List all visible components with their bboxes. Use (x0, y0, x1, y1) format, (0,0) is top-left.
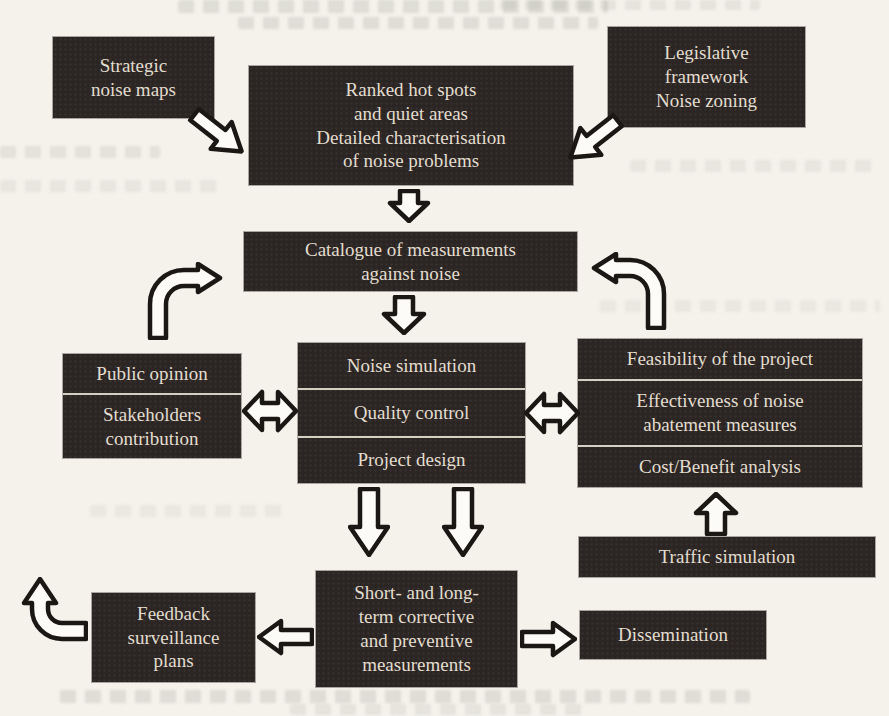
page-bleed-through (90, 505, 290, 517)
box-traffic-simulation-label: Traffic simulation (653, 543, 802, 571)
box-effectiveness: Effectiveness of noise abatement measure… (578, 379, 862, 445)
box-ranked-hot-spots-label: Ranked hot spots and quiet areas Detaile… (310, 76, 511, 176)
arrow-measures-to-feedback-icon (257, 618, 314, 656)
box-stakeholders-contribution-label: Stakeholders contribution (97, 401, 207, 453)
page-bleed-through (630, 160, 880, 172)
box-traffic-simulation: Traffic simulation (579, 537, 875, 577)
arrow-feedback-loop-icon (18, 577, 88, 655)
box-stakeholders-contribution: Stakeholders contribution (63, 393, 241, 458)
page-bleed-through (238, 17, 598, 29)
box-cost-benefit: Cost/Benefit analysis (578, 445, 862, 487)
box-feedback-surveillance-plans-label: Feedback surveillance plans (122, 600, 226, 676)
arrow-catalogue-to-simulation-icon (381, 295, 427, 335)
arrow-double-right-icon (524, 388, 580, 438)
box-quality-control: Quality control (298, 388, 525, 435)
book-page-diagram: Strategic noise maps Ranked hot spots an… (0, 0, 889, 716)
box-public-opinion-label: Public opinion (90, 360, 213, 388)
arrow-double-left-icon (242, 386, 298, 436)
box-strategic-noise-maps: Strategic noise maps (53, 37, 214, 118)
stack-feasibility-effectiveness-cost: Feasibility of the project Effectiveness… (578, 339, 862, 487)
box-noise-simulation: Noise simulation (298, 343, 525, 388)
box-noise-simulation-label: Noise simulation (341, 352, 482, 380)
box-ranked-hot-spots: Ranked hot spots and quiet areas Detaile… (249, 66, 573, 185)
page-bleed-through (178, 0, 608, 13)
box-project-design: Project design (298, 436, 525, 483)
arrow-curved-right-icon (590, 252, 672, 330)
page-bleed-through (500, 0, 760, 10)
arrow-design-to-measures-right-icon (442, 487, 484, 557)
box-catalogue-of-measurements: Catalogue of measurements against noise (244, 232, 577, 291)
arrow-measures-to-dissemination-icon (520, 620, 577, 658)
box-public-opinion: Public opinion (63, 354, 241, 393)
box-effectiveness-label: Effectiveness of noise abatement measure… (630, 387, 809, 439)
arrow-design-to-measures-left-icon (348, 487, 390, 557)
box-short-long-term-measures-label: Short- and long- term corrective and pre… (348, 579, 485, 679)
box-feedback-surveillance-plans: Feedback surveillance plans (92, 593, 255, 682)
box-legislative-framework-label: Legislative framework Noise zoning (650, 39, 763, 115)
box-cost-benefit-label: Cost/Benefit analysis (633, 453, 807, 481)
page-bleed-through (290, 704, 590, 715)
box-quality-control-label: Quality control (348, 399, 476, 427)
stack-public-stakeholders: Public opinion Stakeholders contribution (63, 354, 241, 458)
page-bleed-through (0, 146, 160, 158)
box-short-long-term-measures: Short- and long- term corrective and pre… (316, 571, 517, 687)
page-bleed-through (0, 180, 220, 192)
box-feasibility: Feasibility of the project (578, 339, 862, 379)
box-project-design-label: Project design (351, 446, 471, 474)
box-strategic-noise-maps-label: Strategic noise maps (85, 52, 182, 104)
box-legislative-framework: Legislative framework Noise zoning (608, 27, 805, 127)
arrow-curved-left-icon (142, 262, 224, 340)
box-catalogue-of-measurements-label: Catalogue of measurements against noise (299, 236, 522, 288)
arrow-traffic-to-costbenefit-icon (690, 492, 742, 536)
box-dissemination-label: Dissemination (612, 621, 734, 649)
box-feasibility-label: Feasibility of the project (621, 345, 819, 373)
page-bleed-through (60, 690, 750, 703)
box-dissemination: Dissemination (580, 611, 766, 659)
stack-simulation-control-design: Noise simulation Quality control Project… (298, 343, 525, 483)
arrow-ranked-to-catalogue-icon (387, 189, 431, 223)
